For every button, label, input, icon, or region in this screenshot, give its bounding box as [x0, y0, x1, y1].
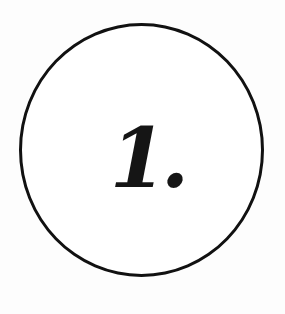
step-number-label: 1.	[110, 117, 184, 199]
step-number-container: 1.	[0, 0, 285, 314]
numbered-circle-diagram: 1.	[0, 0, 285, 314]
